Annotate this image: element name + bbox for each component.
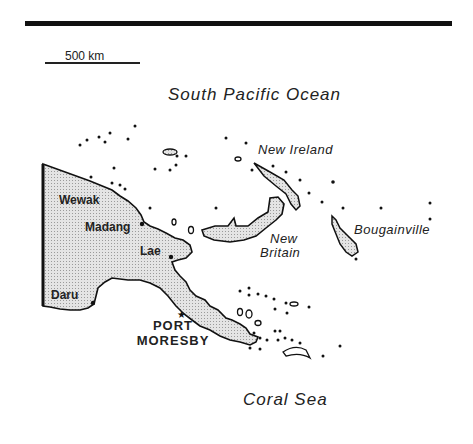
label-moresby: MORESBY	[133, 333, 213, 348]
label-port: PORT	[133, 318, 213, 333]
label-lae: Lae	[140, 244, 161, 258]
label-madang: Madang	[85, 220, 130, 234]
label-port-moresby: PORT MORESBY	[133, 318, 213, 348]
label-new-ireland: New Ireland	[258, 142, 333, 157]
label-wewak: Wewak	[59, 193, 99, 207]
label-new-britain-1: New	[270, 231, 298, 246]
label-coral-sea: Coral Sea	[243, 390, 328, 410]
label-bougainville: Bougainville	[354, 222, 430, 237]
label-new-britain-2: Britain	[260, 245, 300, 260]
label-daru: Daru	[51, 288, 78, 302]
label-south-pacific-ocean: South Pacific Ocean	[168, 85, 341, 105]
